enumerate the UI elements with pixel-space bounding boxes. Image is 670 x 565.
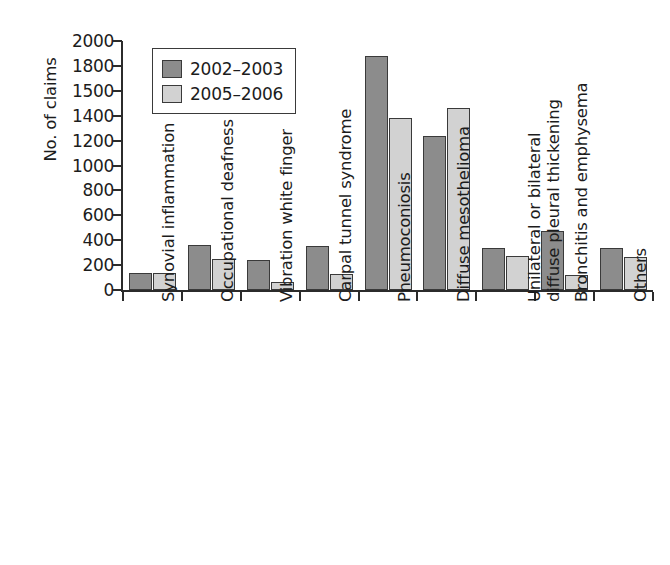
x-axis-category-label: Vibration white finger xyxy=(278,129,296,302)
x-axis-category-label: Unilateral or bilateraldiffuse pleural t… xyxy=(525,99,563,302)
x-axis-category-label: Others xyxy=(632,248,650,302)
bar-chart-figure: No. of claims 20001800150014001200100080… xyxy=(0,0,670,565)
x-axis-category-label: Pneumoconiosis xyxy=(396,173,414,302)
x-axis-category-label: Synovial inflammation xyxy=(160,123,178,302)
x-axis-category-label: Bronchitis and emphysema xyxy=(573,83,591,302)
x-axis-category-labels: Synovial inflammationOccupational deafne… xyxy=(0,0,670,565)
x-axis-category-label: Occupational deafness xyxy=(219,119,237,302)
x-axis-category-label: Diffuse mesothelioma xyxy=(455,126,473,302)
x-axis-category-label-line: diffuse pleural thickening xyxy=(544,99,563,302)
x-axis-category-label: Carpal tunnel syndrome xyxy=(337,109,355,302)
x-axis-category-label-line: Unilateral or bilateral xyxy=(525,133,544,302)
